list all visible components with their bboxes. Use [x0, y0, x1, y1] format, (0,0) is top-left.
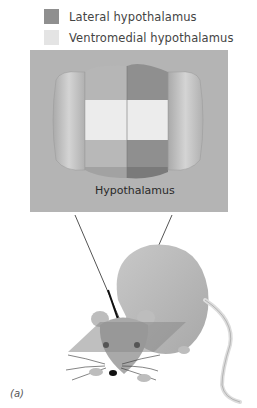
left-outer-lobe [53, 72, 85, 171]
hypothalamus-diagram [0, 0, 257, 408]
right-lateral-bottom [127, 140, 168, 167]
hypothalamus-label: Hypothalamus [95, 184, 175, 197]
right-outer-lobe [168, 72, 203, 171]
left-inner-bottom [85, 140, 127, 167]
left-ventromedial [85, 100, 127, 140]
panel-label: (a) [10, 388, 24, 399]
left-inner-top [85, 66, 127, 100]
right-ventromedial [127, 100, 168, 140]
rat-nose [109, 370, 117, 376]
